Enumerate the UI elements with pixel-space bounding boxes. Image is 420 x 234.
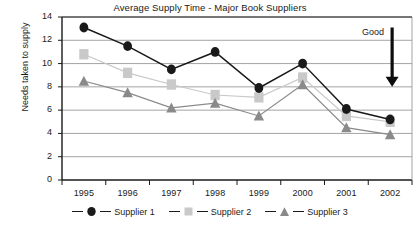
x-tick-label: 2000: [283, 189, 323, 198]
x-tick-label: 2001: [326, 189, 366, 198]
legend-line-supplier-3-right: [293, 211, 304, 212]
data-point-marker: [254, 92, 263, 102]
chart-legend: Supplier 1 Supplier 2 Supplier 3: [0, 206, 420, 217]
data-point-marker: [79, 49, 88, 59]
gridlines: [62, 17, 412, 157]
data-point-marker: [123, 68, 132, 78]
legend-marker-square-icon: [183, 206, 194, 217]
legend-item-supplier-2[interactable]: Supplier 2: [169, 206, 252, 217]
data-point-marker: [254, 111, 264, 121]
legend-marker-triangle-icon: [279, 206, 290, 217]
chart-container: Average Supply Time - Major Book Supplie…: [0, 0, 420, 234]
annotation-layer: [386, 27, 399, 86]
legend-line-supplier-2: [169, 211, 180, 212]
legend-line-supplier-1-right: [100, 211, 111, 212]
x-tick-label: 1995: [64, 189, 104, 198]
x-tick-label: 1996: [108, 189, 148, 198]
x-axis-ticks: [62, 180, 412, 185]
legend-label-supplier-3: Supplier 3: [307, 207, 348, 217]
legend-line-supplier-2-right: [197, 211, 208, 212]
data-point-marker: [254, 83, 263, 93]
legend-marker-circle-icon: [86, 206, 97, 217]
data-point-marker: [123, 41, 132, 51]
legend-line-supplier-3: [265, 211, 276, 212]
legend-item-supplier-3[interactable]: Supplier 3: [265, 206, 348, 217]
x-tick-label: 1997: [151, 189, 191, 198]
data-point-marker: [211, 47, 220, 57]
y-tick-label: 12: [26, 35, 52, 44]
y-tick-label: 14: [26, 12, 52, 21]
y-tick-label: 10: [26, 59, 52, 68]
y-tick-label: 2: [26, 152, 52, 161]
y-tick-label: 4: [26, 128, 52, 137]
legend-label-supplier-1: Supplier 1: [114, 207, 155, 217]
data-point-marker: [79, 76, 89, 86]
data-point-marker: [298, 59, 307, 69]
annotation-good-label: Good: [362, 27, 384, 37]
x-tick-label: 1998: [195, 189, 235, 198]
chart-title: Average Supply Time - Major Book Supplie…: [0, 2, 420, 13]
data-point-marker: [342, 104, 351, 114]
data-point-marker: [386, 115, 395, 125]
legend-line-supplier-1: [72, 211, 83, 212]
legend-item-supplier-1[interactable]: Supplier 1: [72, 206, 155, 217]
axis-lines: [62, 17, 412, 180]
annotation-arrow-head-icon: [386, 77, 399, 87]
series-supplier-2: [79, 49, 394, 127]
data-point-marker: [167, 79, 176, 89]
x-tick-label: 2002: [370, 189, 410, 198]
legend-label-supplier-2: Supplier 2: [211, 207, 252, 217]
data-point-marker: [79, 23, 88, 33]
x-tick-label: 1999: [239, 189, 279, 198]
y-tick-label: 6: [26, 105, 52, 114]
plot-area: [0, 0, 420, 234]
y-tick-label: 0: [26, 175, 52, 184]
y-tick-label: 8: [26, 82, 52, 91]
data-point-marker: [167, 64, 176, 74]
